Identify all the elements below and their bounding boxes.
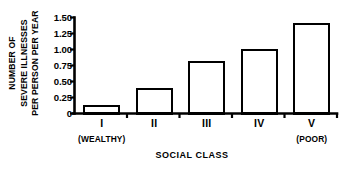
bars-group bbox=[84, 24, 329, 114]
bar-IV bbox=[242, 50, 277, 113]
x-axis-category-label-IV: IV bbox=[254, 117, 265, 129]
x-axis-category-label-I: I bbox=[100, 117, 103, 129]
bar-V bbox=[294, 24, 329, 114]
x-axis-category-label-II: II bbox=[151, 117, 157, 129]
x-axis-category-label-III: III bbox=[202, 117, 212, 129]
plot-area bbox=[0, 0, 342, 170]
x-axis-category-sublabel-I: (WEALTHY) bbox=[78, 134, 125, 144]
x-axis-category-sublabel-V: (POOR) bbox=[296, 134, 327, 144]
x-axis-title: SOCIAL CLASS bbox=[0, 150, 342, 160]
x-axis-title-text: SOCIAL CLASS bbox=[114, 150, 229, 160]
bar-II bbox=[137, 89, 172, 113]
bar-chart-figure: NUMBER OF SEVERE ILLNESSES PER PERSON PE… bbox=[0, 0, 342, 170]
bar-I bbox=[84, 106, 119, 114]
x-axis-category-label-V: V bbox=[308, 117, 315, 129]
bar-III bbox=[189, 62, 224, 114]
